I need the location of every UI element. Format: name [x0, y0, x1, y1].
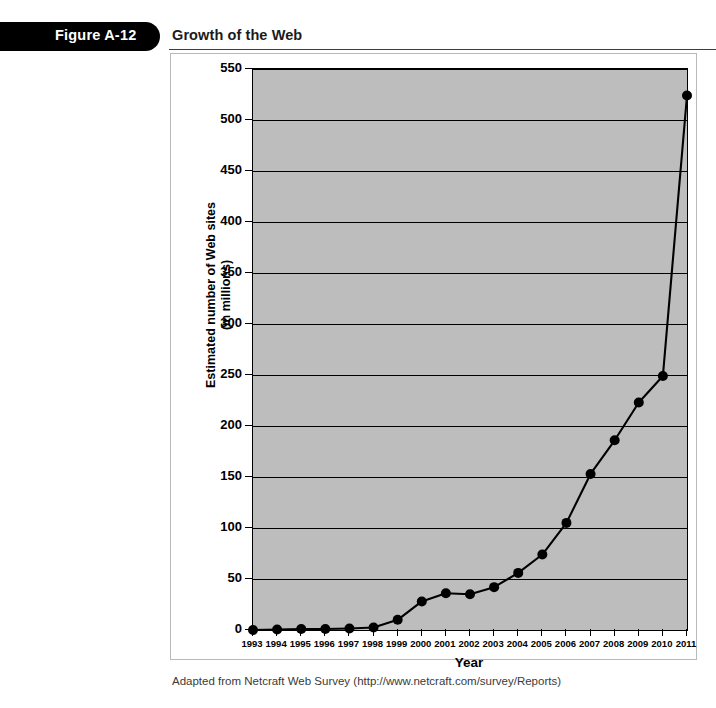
y-axis-title-line1: Estimated number of Web sites: [204, 180, 219, 410]
data-point-marker: [561, 518, 571, 528]
y-axis-tick-mark: [245, 578, 252, 579]
data-point-marker: [369, 622, 379, 632]
x-axis-tick-mark: [276, 629, 277, 636]
data-point-marker: [634, 398, 644, 408]
y-axis-tick-mark: [245, 119, 252, 120]
x-axis-tick-mark: [324, 629, 325, 636]
x-axis-tick-label: 2011: [671, 638, 701, 649]
series-line: [253, 96, 687, 630]
x-axis-tick-mark: [397, 629, 398, 636]
data-point-marker: [296, 624, 306, 634]
y-axis-tick-mark: [245, 476, 252, 477]
data-point-marker: [682, 91, 692, 101]
data-point-marker: [417, 596, 427, 606]
data-point-marker: [465, 589, 475, 599]
data-point-marker: [248, 625, 258, 635]
x-axis-tick-mark: [517, 629, 518, 636]
header-divider: [169, 49, 716, 50]
source-note: Adapted from Netcraft Web Survey (http:/…: [172, 675, 561, 687]
x-axis-tick-mark: [348, 629, 349, 636]
data-point-marker: [344, 623, 354, 633]
y-axis-tick-mark: [245, 629, 252, 630]
figure-number-label: Figure A-12: [55, 27, 150, 43]
y-axis-tick-mark: [245, 170, 252, 171]
y-axis-tick-mark: [245, 374, 252, 375]
y-axis-tick-mark: [245, 527, 252, 528]
figure-header: Figure A-12 Growth of the Web: [0, 22, 716, 51]
plot-area: [252, 68, 688, 631]
y-axis-tick-label: 200: [196, 417, 242, 432]
data-point-marker: [441, 588, 451, 598]
x-axis-tick-mark: [421, 629, 422, 636]
data-point-marker: [513, 568, 523, 578]
data-point-marker: [489, 582, 499, 592]
y-axis-tick-label: 150: [196, 468, 242, 483]
y-axis-tick-label: 50: [196, 570, 242, 585]
data-point-marker: [272, 624, 282, 634]
data-point-marker: [537, 550, 547, 560]
data-point-marker: [320, 624, 330, 634]
x-axis-tick-mark: [373, 629, 374, 636]
y-axis-tick-mark: [245, 272, 252, 273]
y-axis-tick-label: 0: [196, 621, 242, 636]
y-axis-tick-label: 500: [196, 111, 242, 126]
data-point-marker: [610, 435, 620, 445]
data-point-marker: [586, 469, 596, 479]
y-axis-tick-mark: [245, 425, 252, 426]
y-axis-tick-mark: [245, 68, 252, 69]
x-axis-tick-mark: [469, 629, 470, 636]
x-axis-tick-mark: [590, 629, 591, 636]
x-axis-tick-mark: [638, 629, 639, 636]
y-axis-title-line2: (in millions): [219, 180, 234, 410]
x-axis-tick-mark: [493, 629, 494, 636]
y-axis-title: Estimated number of Web sites (in millio…: [204, 180, 234, 410]
x-axis-tick-mark: [445, 629, 446, 636]
series-line-chart: [253, 69, 687, 630]
x-axis-title: Year: [252, 655, 686, 670]
x-axis-tick-mark: [614, 629, 615, 636]
data-point-marker: [658, 371, 668, 381]
y-axis-tick-mark: [245, 221, 252, 222]
data-point-marker: [393, 615, 403, 625]
y-axis-tick-label: 450: [196, 162, 242, 177]
x-axis-tick-mark: [541, 629, 542, 636]
y-axis-tick-mark: [245, 323, 252, 324]
x-axis-tick-mark: [686, 629, 687, 636]
y-axis-tick-label: 550: [196, 60, 242, 75]
figure-title: Growth of the Web: [172, 27, 302, 43]
x-axis-tick-mark: [565, 629, 566, 636]
x-axis-tick-mark: [252, 629, 253, 636]
x-axis-tick-mark: [662, 629, 663, 636]
y-axis-tick-label: 100: [196, 519, 242, 534]
x-axis-tick-mark: [300, 629, 301, 636]
